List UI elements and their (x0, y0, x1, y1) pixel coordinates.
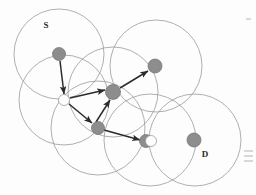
scan-artifacts-layer (244, 18, 253, 162)
link-r1-to-r3 (69, 104, 92, 123)
link-s-to-r1 (60, 61, 64, 94)
node-d (187, 133, 201, 147)
link-r2-to-r4 (120, 71, 148, 88)
node-r5b (146, 136, 157, 147)
node-r3 (92, 122, 105, 135)
node-s (53, 48, 66, 61)
network-topology-figure: SD (0, 0, 256, 195)
coverage-circles-layer (14, 9, 241, 186)
node-r2 (106, 85, 121, 100)
node-r1 (59, 95, 70, 106)
node-r4 (148, 59, 162, 73)
figure-canvas: SD (0, 0, 256, 195)
link-r1-to-r2 (70, 90, 105, 98)
destination-label: D (202, 149, 209, 159)
source-label: S (43, 20, 48, 30)
